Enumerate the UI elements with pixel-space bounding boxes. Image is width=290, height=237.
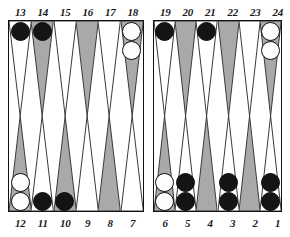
checker-stack-14 <box>31 22 53 41</box>
point-8[interactable] <box>98 116 120 211</box>
point-labels-bottom-left: 121110987 <box>9 216 144 230</box>
checker-white[interactable] <box>155 192 174 211</box>
point-number-22: 22 <box>222 5 245 19</box>
checker-black[interactable] <box>33 192 52 211</box>
point-3[interactable] <box>218 116 239 211</box>
point-number-12: 12 <box>9 216 32 230</box>
point-number-21: 21 <box>199 5 222 19</box>
checker-stack-5 <box>175 173 196 211</box>
quadrant-top-left <box>9 21 143 116</box>
checker-white[interactable] <box>122 22 141 41</box>
checker-white[interactable] <box>11 173 30 192</box>
point-15[interactable] <box>54 21 76 116</box>
point-number-14: 14 <box>32 5 55 19</box>
point-19[interactable] <box>154 21 175 116</box>
checker-stack-19 <box>154 22 175 41</box>
point-number-8: 8 <box>99 216 122 230</box>
quadrant-top-right <box>154 21 281 116</box>
backgammon-board: 131415161718 192021222324 121110987 6543… <box>0 0 289 237</box>
checker-black[interactable] <box>261 173 280 192</box>
checker-black[interactable] <box>55 192 74 211</box>
point-number-3: 3 <box>222 216 245 230</box>
point-number-18: 18 <box>122 5 145 19</box>
point-5[interactable] <box>175 116 196 211</box>
checker-black[interactable] <box>219 173 238 192</box>
checker-stack-21 <box>196 22 217 41</box>
point-labels-top-right: 192021222324 <box>154 5 289 19</box>
point-number-1: 1 <box>267 216 290 230</box>
point-number-24: 24 <box>267 5 290 19</box>
checker-stack-6 <box>154 173 175 211</box>
checker-stack-10 <box>54 192 76 211</box>
point-labels-bottom-right: 654321 <box>154 216 289 230</box>
point-17[interactable] <box>98 21 120 116</box>
point-number-6: 6 <box>154 216 177 230</box>
point-21[interactable] <box>196 21 217 116</box>
checker-stack-1 <box>260 173 281 211</box>
point-2[interactable] <box>239 116 260 211</box>
checker-white[interactable] <box>11 192 30 211</box>
checker-black[interactable] <box>155 22 174 41</box>
checker-black[interactable] <box>176 173 195 192</box>
point-12[interactable] <box>9 116 31 211</box>
checker-stack-13 <box>9 22 31 41</box>
point-labels-top-left: 131415161718 <box>9 5 144 19</box>
point-number-2: 2 <box>244 216 267 230</box>
point-18[interactable] <box>121 21 143 116</box>
point-number-17: 17 <box>99 5 122 19</box>
point-20[interactable] <box>175 21 196 116</box>
checker-black[interactable] <box>33 22 52 41</box>
board-half-left <box>8 20 144 212</box>
point-11[interactable] <box>31 116 53 211</box>
point-13[interactable] <box>9 21 31 116</box>
checker-stack-12 <box>9 173 31 211</box>
point-number-19: 19 <box>154 5 177 19</box>
point-number-5: 5 <box>177 216 200 230</box>
point-22[interactable] <box>218 21 239 116</box>
checker-white[interactable] <box>122 41 141 60</box>
checker-stack-18 <box>121 22 143 60</box>
point-number-13: 13 <box>9 5 32 19</box>
point-number-16: 16 <box>77 5 100 19</box>
checker-stack-3 <box>218 173 239 211</box>
point-number-4: 4 <box>199 216 222 230</box>
point-14[interactable] <box>31 21 53 116</box>
checker-white[interactable] <box>155 173 174 192</box>
point-number-15: 15 <box>54 5 77 19</box>
checker-black[interactable] <box>197 22 216 41</box>
checker-black[interactable] <box>176 192 195 211</box>
point-number-23: 23 <box>244 5 267 19</box>
point-1[interactable] <box>260 116 281 211</box>
point-number-20: 20 <box>177 5 200 19</box>
point-9[interactable] <box>76 116 98 211</box>
checker-black[interactable] <box>261 192 280 211</box>
checker-white[interactable] <box>261 41 280 60</box>
checker-white[interactable] <box>261 22 280 41</box>
checker-black[interactable] <box>219 192 238 211</box>
point-number-9: 9 <box>77 216 100 230</box>
point-number-11: 11 <box>32 216 55 230</box>
point-4[interactable] <box>196 116 217 211</box>
point-10[interactable] <box>54 116 76 211</box>
checker-stack-11 <box>31 192 53 211</box>
point-number-10: 10 <box>54 216 77 230</box>
quadrant-bottom-left <box>9 116 143 211</box>
point-6[interactable] <box>154 116 175 211</box>
point-23[interactable] <box>239 21 260 116</box>
quadrant-bottom-right <box>154 116 281 211</box>
point-16[interactable] <box>76 21 98 116</box>
point-24[interactable] <box>260 21 281 116</box>
point-7[interactable] <box>121 116 143 211</box>
checker-stack-24 <box>260 22 281 60</box>
checker-black[interactable] <box>11 22 30 41</box>
board-half-right <box>153 20 282 212</box>
point-number-7: 7 <box>122 216 145 230</box>
